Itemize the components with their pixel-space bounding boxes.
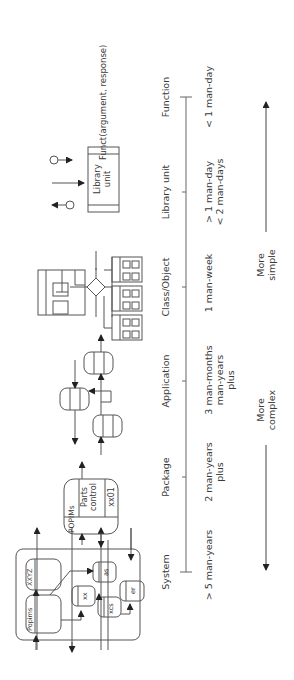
level-name-application: Application [160,354,171,407]
library-unit-label: Library unit [92,156,112,202]
more-simple-label: More simple [255,249,277,280]
level-effort-function: < 1 man-day [203,66,214,128]
level-effort-application: 3 man-months man-years plus [203,345,236,414]
more-complex-label: More complex [255,390,277,430]
package-cell-xx01: xx01 [106,479,117,515]
level-axis [180,97,192,572]
diagram-graphics: Popims XXYZ xx as xcs er [0,0,294,680]
level-effort-library-unit: > 1 man-day < 2 man-days [203,159,225,226]
level-name-library-unit: Library unit [160,165,171,220]
software-complexity-diagram: Popims XXYZ xx as xcs er POPIMs Parts co… [0,0,294,680]
system-diagram [16,528,144,652]
system-module-xx: xx [81,592,89,600]
level-effort-package: 2 man-years plus [203,442,225,502]
application-diagram [60,335,122,455]
level-effort-class-object: 1 man-week [203,254,214,313]
system-module-xxyz: XXYZ [26,568,34,586]
level-effort-system: > 5 man-years [203,530,214,601]
package-cell-parts-control: Parts control [80,479,98,515]
system-module-popims: Popims [26,607,34,631]
class-object-diagram [38,251,142,340]
system-module-er: er [129,587,137,594]
function-signature-label: Funct(argument, response) [98,45,109,160]
level-name-function: Function [160,77,171,117]
level-name-package: Package [160,457,171,496]
package-cell-popims: POPIMs [66,517,77,533]
system-module-xcs: xcs [107,603,115,614]
level-name-system: System [160,554,171,589]
system-module-as: as [102,568,110,576]
level-name-class-object: Class/Object [160,257,171,316]
